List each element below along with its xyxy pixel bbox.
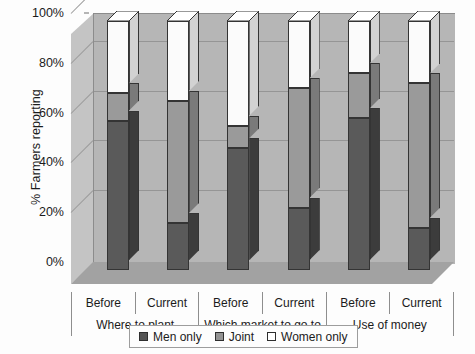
bar-segment-joint [227, 126, 249, 148]
y-axis-tick-60: 60% [18, 106, 64, 120]
bar-side-face [189, 91, 199, 213]
bar-side-face [310, 78, 320, 198]
legend-label: Joint [229, 330, 254, 344]
bar-side-face [249, 138, 259, 260]
bar-segment-women-only [167, 21, 189, 101]
y-axis-tick-0: 0% [18, 255, 64, 269]
y-axis-tick-80: 80% [18, 56, 64, 70]
gridline-60 [94, 91, 454, 92]
bar-segment-men-only [167, 223, 189, 270]
category-label-period: Before [326, 292, 390, 314]
bar-segment-women-only [348, 21, 370, 73]
bar-segment-women-only [408, 21, 430, 83]
bar-column [348, 21, 370, 270]
bar-segment-men-only [107, 121, 129, 270]
bar-segment-joint [107, 93, 129, 120]
y-axis-tick-40: 40% [18, 155, 64, 169]
y-axis-tick-100: 100% [18, 6, 64, 20]
men-only-swatch [139, 332, 148, 341]
bar-side-face [370, 108, 380, 260]
bar-side-face [310, 198, 320, 260]
bar-side-face [249, 11, 259, 116]
bar-segment-men-only [408, 228, 430, 270]
plot-area [71, 13, 454, 292]
category-label-period: Current [389, 292, 454, 314]
bar-column [227, 21, 249, 270]
category-label-period: Before [71, 292, 135, 314]
bar-side-face [430, 73, 440, 217]
legend-label: Women only [281, 330, 347, 344]
bar-segment-women-only [288, 21, 310, 88]
women-only-swatch [267, 332, 276, 341]
bar-column [107, 21, 129, 270]
plot-back-wall [93, 13, 455, 264]
gridline-side-100 [71, 0, 94, 14]
stacked-bar-chart: % Farmers reporting 100%80%60%40%20%0% B… [0, 0, 475, 354]
gridline-40 [94, 140, 454, 141]
category-label-period: Current [262, 292, 326, 314]
legend-label: Men only [153, 330, 202, 344]
bar-side-face [129, 111, 139, 260]
bar-side-face [310, 11, 320, 78]
legend-item-men-only: Men only [139, 330, 202, 344]
bar-segment-men-only [227, 148, 249, 270]
bar-segment-women-only [107, 21, 129, 93]
category-axis-row-periods: BeforeCurrentBeforeCurrentBeforeCurrent [71, 292, 454, 314]
joint-swatch [215, 332, 224, 341]
gridline-20 [94, 190, 454, 191]
legend-item-women-only: Women only [267, 330, 347, 344]
bar-column [288, 21, 310, 270]
gridline-80 [94, 41, 454, 42]
bar-segment-joint [167, 101, 189, 223]
category-label-period: Before [198, 292, 262, 314]
bar-column [408, 21, 430, 270]
legend-item-joint: Joint [215, 330, 254, 344]
bar-side-face [189, 11, 199, 91]
y-axis-tick-20: 20% [18, 205, 64, 219]
bar-segment-joint [348, 73, 370, 118]
bar-segment-joint [408, 83, 430, 227]
bar-segment-women-only [227, 21, 249, 126]
bar-segment-men-only [348, 118, 370, 270]
category-label-period: Current [135, 292, 199, 314]
bar-column [167, 21, 189, 270]
chart-legend: Men onlyJointWomen only [129, 325, 358, 348]
bar-segment-joint [288, 88, 310, 208]
bar-side-face [129, 11, 139, 83]
bar-side-face [430, 11, 440, 73]
bar-segment-men-only [288, 208, 310, 270]
y-axis-tick-labels: 100%80%60%40%20%0% [18, 0, 64, 354]
